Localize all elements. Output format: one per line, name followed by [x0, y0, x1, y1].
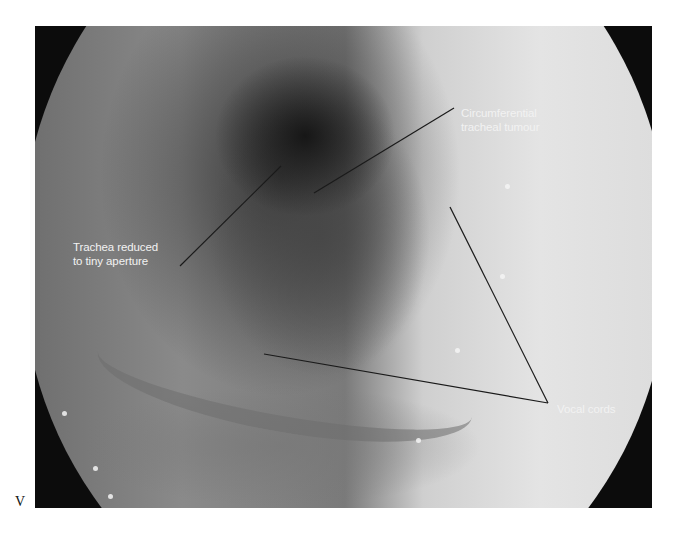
stray-glyph: V — [15, 494, 25, 510]
annotation-leader-lines — [0, 0, 681, 536]
vocal-cords-label-text: Vocal cords — [557, 402, 615, 416]
tumour-label-line-1: Circumferential — [461, 106, 539, 120]
vocal-cord-leader-line-left — [264, 354, 548, 403]
trachea-label-line-2: to tiny aperture — [73, 254, 158, 268]
trachea-label: Trachea reduced to tiny aperture — [73, 240, 158, 268]
tumour-leader-line — [314, 108, 454, 193]
tumour-label: Circumferential tracheal tumour — [461, 106, 539, 134]
trachea-label-line-1: Trachea reduced — [73, 240, 158, 254]
vocal-cord-leader-line-right — [450, 207, 548, 403]
tumour-label-line-2: tracheal tumour — [461, 120, 539, 134]
vocal-cords-label: Vocal cords — [557, 402, 615, 416]
trachea-leader-line — [180, 166, 281, 266]
